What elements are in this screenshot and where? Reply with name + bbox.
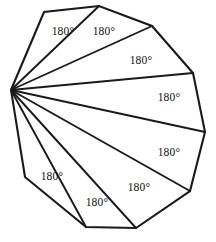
triangle-label-8: 180°	[41, 171, 64, 183]
triangle-label-5: 180°	[158, 147, 181, 159]
triangle-label-6: 180°	[128, 182, 151, 194]
decagon-outline	[11, 6, 205, 228]
triangle-label-1: 180°	[52, 26, 75, 38]
triangle-label-4: 180°	[158, 92, 181, 104]
triangle-label-3: 180°	[130, 55, 153, 67]
decagon-triangulation-figure: 180° 180° 180° 180° 180° 180° 180° 180°	[0, 0, 216, 242]
triangle-label-2: 180°	[93, 26, 116, 38]
triangle-label-7: 180°	[86, 197, 109, 209]
